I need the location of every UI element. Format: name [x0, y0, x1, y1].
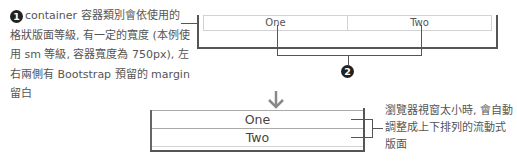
container-callout-text: container 容器類別會依使用的格狀版面等級, 有一定的寬度 (本例使用 … [10, 9, 190, 100]
callout-leader-line [181, 23, 197, 24]
row-divider [152, 128, 363, 129]
container-bracket-left [197, 15, 199, 49]
row-bottom-line [152, 146, 363, 147]
bracket-center-stem [348, 55, 349, 65]
bracket-leader [372, 128, 383, 129]
fluid-layout-callout: 瀏覽器視窗太小時, 會自動調整成上下排列的流動式版面 [385, 102, 515, 153]
callout-badge-2: 2 [341, 65, 354, 78]
container-bracket-right [496, 15, 498, 49]
bracket-crossbar [277, 55, 422, 56]
bracket-two-stem [421, 25, 422, 56]
narrow-top-border [150, 110, 363, 111]
column-two: Two [348, 17, 491, 28]
narrow-bottom-border [150, 150, 365, 152]
row-right-border [491, 15, 492, 31]
row-two: Two [152, 130, 363, 145]
callout-badge-1: 1 [10, 10, 23, 23]
bracket-row-two [351, 137, 373, 138]
container-callout: 1container 容器類別會依使用的格狀版面等級, 有一定的寬度 (本例使用… [10, 6, 190, 104]
container-bracket-bottom [197, 47, 498, 49]
column-one: One [204, 17, 347, 28]
narrow-right-border [363, 108, 365, 152]
bracket-one-stem [277, 25, 278, 56]
arrow-down-icon [267, 90, 285, 110]
row-one: One [152, 112, 363, 127]
bracket-row-one [351, 119, 373, 120]
